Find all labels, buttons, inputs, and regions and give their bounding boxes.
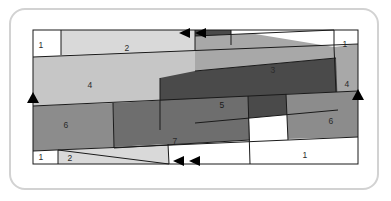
tile-7: [113, 96, 250, 148]
tile-6a: [33, 103, 114, 151]
tiling-diagram-canvas: [0, 0, 391, 201]
tile-1a: [33, 30, 61, 57]
figure-root: 1 2 3 1 4 4 5 6 6 7 1 2 1: [0, 0, 391, 201]
tile-1c: [33, 150, 58, 164]
tile-6b: [286, 91, 358, 140]
tile-4b: [334, 44, 358, 92]
